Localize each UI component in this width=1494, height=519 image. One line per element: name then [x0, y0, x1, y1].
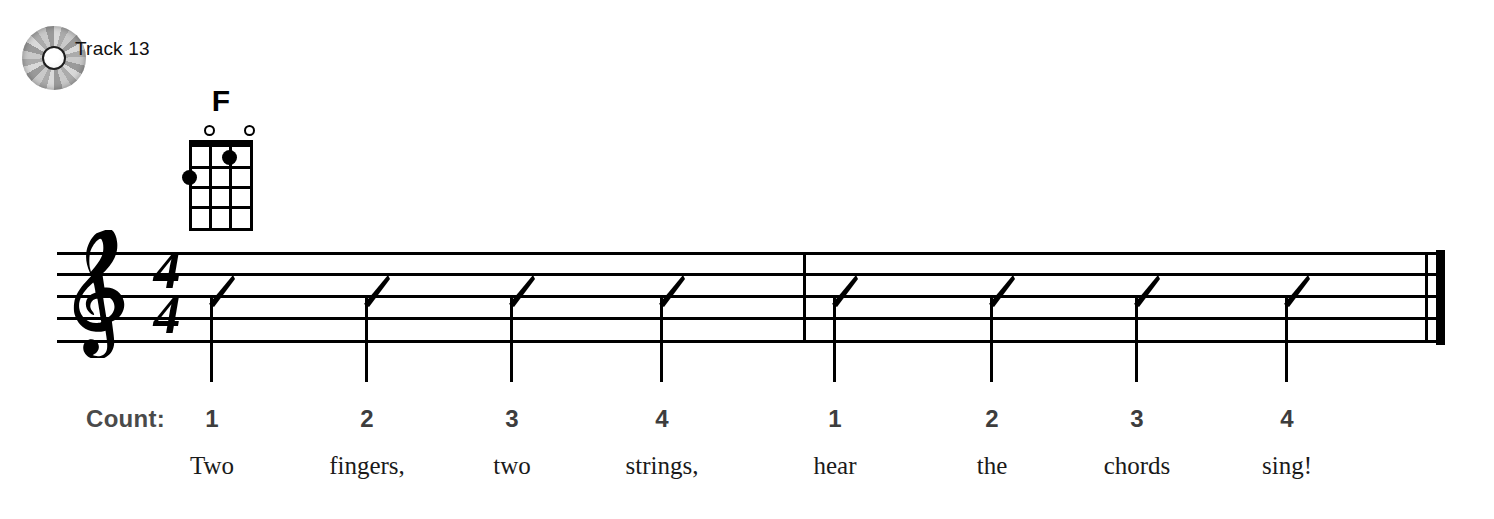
note-stem	[510, 296, 513, 382]
note-stem	[990, 296, 993, 382]
staff-line-1	[57, 340, 1445, 343]
beat-number-m1-b1: 1	[182, 405, 242, 433]
sheet-music-page: Track 13 F	[0, 0, 1494, 519]
finger-dot-string1-fret2	[182, 170, 197, 185]
note-stem	[1285, 296, 1288, 382]
note-stem	[1135, 296, 1138, 382]
slash-note-m1-b2	[364, 274, 390, 382]
slash-note-m1-b1	[209, 274, 235, 382]
note-stem	[210, 296, 213, 382]
track-label: Track 13	[75, 38, 150, 60]
chord-diagram: F	[183, 86, 259, 234]
cd-center-hole	[42, 46, 66, 70]
finger-dot-string3-fret1	[222, 150, 237, 165]
staff-line-3	[57, 295, 1445, 298]
beat-number-m1-b3: 3	[482, 405, 542, 433]
slash-note-m2-b4	[1284, 274, 1310, 382]
chord-name-label: F	[183, 86, 259, 116]
fret-line-2	[192, 186, 250, 189]
open-string-marker-1	[204, 125, 215, 136]
count-label: Count:	[86, 405, 165, 433]
chord-fretboard-grid	[189, 140, 253, 231]
beat-number-m2-b1: 1	[805, 405, 865, 433]
time-signature-beat-value: 4	[145, 293, 189, 338]
slash-note-m2-b3	[1134, 274, 1160, 382]
note-stem	[660, 296, 663, 382]
staff-line-2	[57, 317, 1445, 320]
lyric-m2-b3: chords	[1062, 452, 1212, 480]
beat-number-m1-b2: 2	[337, 405, 397, 433]
slash-note-m2-b2	[989, 274, 1015, 382]
barline-end-thick	[1436, 250, 1445, 345]
slash-note-m1-b3	[509, 274, 535, 382]
note-stem	[833, 296, 836, 382]
fret-line-1	[192, 166, 250, 169]
lyric-m1-b4: strings,	[587, 452, 737, 480]
staff-line-4	[57, 273, 1445, 276]
lyric-m2-b1: hear	[760, 452, 910, 480]
lyric-m1-b1: Two	[137, 452, 287, 480]
staff-line-5	[57, 252, 1445, 255]
beat-number-m2-b3: 3	[1107, 405, 1167, 433]
open-string-markers	[183, 123, 259, 139]
music-staff: 4 4	[57, 252, 1445, 348]
lyric-m1-b3: two	[437, 452, 587, 480]
beat-number-m2-b2: 2	[962, 405, 1022, 433]
fret-line-3	[192, 206, 250, 209]
treble-clef-icon	[63, 230, 133, 358]
beat-number-m2-b4: 4	[1257, 405, 1317, 433]
note-stem	[365, 296, 368, 382]
slash-note-m2-b1	[832, 274, 858, 382]
open-string-marker-3	[244, 125, 255, 136]
beat-number-m1-b4: 4	[632, 405, 692, 433]
barline-end-thin	[1425, 252, 1428, 343]
lyric-m1-b2: fingers,	[292, 452, 442, 480]
barline-middle	[803, 252, 806, 343]
time-signature: 4 4	[145, 248, 189, 340]
lyric-m2-b2: the	[917, 452, 1067, 480]
slash-note-m1-b4	[659, 274, 685, 382]
track-badge: Track 13	[22, 26, 222, 90]
lyric-m2-b4: sing!	[1212, 452, 1362, 480]
